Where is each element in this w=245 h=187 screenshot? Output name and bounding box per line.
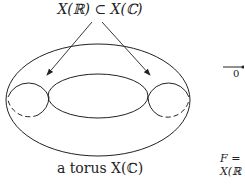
right-real-circle-solid-side: [148, 97, 158, 115]
right-real-circle-back: [158, 100, 189, 117]
left-real-circle-solid-side: [38, 97, 49, 115]
torus-inner-hole: [48, 74, 148, 118]
axis-origin-label: 0: [233, 68, 239, 79]
right-real-circle-front: [148, 83, 189, 97]
torus-caption: a torus X(ℂ): [0, 160, 200, 176]
axis-origin-dot: [242, 66, 245, 69]
torus-diagram: [0, 0, 244, 187]
f-equation-label: F =: [220, 152, 240, 165]
real-points-subset-label: X(ℝ) ⊂ X(ℂ): [0, 1, 200, 17]
left-arrow: [47, 22, 92, 75]
left-real-circle-front: [8, 83, 49, 97]
torus-outer-outline: [6, 44, 190, 156]
right-arrow: [102, 22, 150, 75]
left-real-circle-back: [8, 100, 38, 117]
x-real-label: X(ℝ: [220, 165, 241, 178]
